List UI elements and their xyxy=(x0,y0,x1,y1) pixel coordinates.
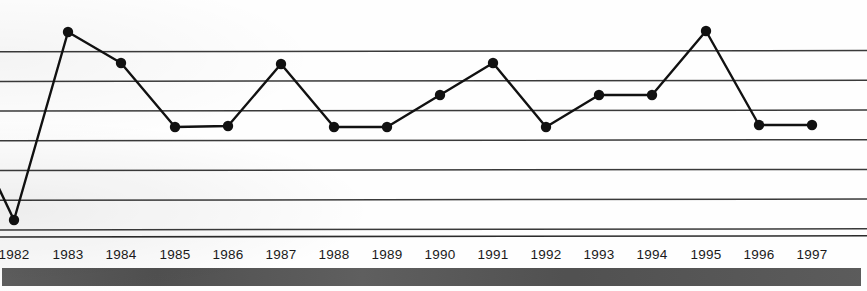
x-tick-label-1990: 1990 xyxy=(410,246,470,264)
x-axis-tick-labels: 1982198319841985198619871988198919901991… xyxy=(0,246,867,270)
x-axis-line xyxy=(0,236,867,237)
data-point-marker: 1985: 3.4 xyxy=(170,122,180,132)
gridline xyxy=(0,51,867,52)
data-point-marker: 1993: 4.5 xyxy=(594,90,604,100)
x-tick-label-1996: 1996 xyxy=(729,246,789,264)
x-tick-label-1987: 1987 xyxy=(251,246,311,264)
data-point-marker: 1982: 0.55 xyxy=(9,215,19,225)
x-tick-label-1991: 1991 xyxy=(463,246,523,264)
x-tick-label-1984: 1984 xyxy=(91,246,151,264)
data-point-marker: 1988: 3.4 xyxy=(329,122,339,132)
leading-line-segment xyxy=(0,178,14,220)
axis-line xyxy=(0,236,867,237)
x-tick-label-1985: 1985 xyxy=(145,246,205,264)
data-point-marker: 1996: 3.5 xyxy=(754,120,764,130)
data-point-marker: 1994: 4.5 xyxy=(647,90,657,100)
x-tick-label-1992: 1992 xyxy=(516,246,576,264)
x-tick-label-1997: 1997 xyxy=(782,246,842,264)
data-point-marker: 1986: 3.45 xyxy=(223,121,233,131)
data-point-marker: 1991: 5.5 xyxy=(488,58,498,68)
gridline xyxy=(0,110,867,111)
gridline xyxy=(0,199,867,200)
x-tick-label-1989: 1989 xyxy=(357,246,417,264)
data-point-marker: 1995: 6.7 xyxy=(701,26,711,36)
gridline xyxy=(0,229,867,230)
x-tick-label-1983: 1983 xyxy=(38,246,98,264)
x-tick-label-1986: 1986 xyxy=(198,246,258,264)
line-chart: 1982: 0.551983: 6.651984: 5.551985: 3.41… xyxy=(0,0,867,291)
gridlines xyxy=(0,51,867,230)
gridline xyxy=(0,169,867,170)
x-tick-label-1995: 1995 xyxy=(676,246,736,264)
x-tick-label-1994: 1994 xyxy=(622,246,682,264)
data-point-marker: 1992: 3.4 xyxy=(541,122,551,132)
x-tick-label-1988: 1988 xyxy=(304,246,364,264)
footer-bar xyxy=(2,268,861,286)
data-point-marker: 1997: 3.5 xyxy=(807,120,817,130)
data-point-marker: 1984: 5.55 xyxy=(116,58,126,68)
series-line xyxy=(14,31,812,220)
data-point-marker: 1987: 5.5 xyxy=(276,59,286,69)
data-points: 1982: 0.551983: 6.651984: 5.551985: 3.41… xyxy=(9,26,817,225)
data-point-marker: 1990: 4.5 xyxy=(435,90,445,100)
gridline xyxy=(0,80,867,81)
data-point-marker: 1983: 6.65 xyxy=(63,27,73,37)
gridline xyxy=(0,140,867,141)
x-tick-label-1993: 1993 xyxy=(569,246,629,264)
data-point-marker: 1989: 3.4 xyxy=(382,122,392,132)
